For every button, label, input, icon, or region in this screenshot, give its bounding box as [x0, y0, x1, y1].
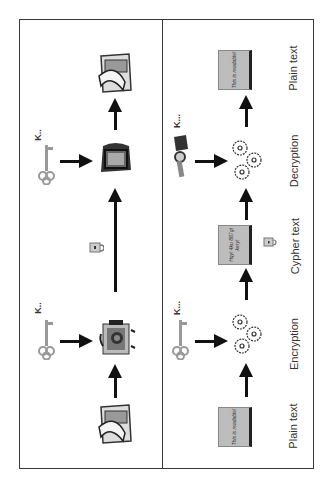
key-label: K.. [33, 302, 43, 314]
stage-label-plain-text-out: Plain text [287, 45, 299, 90]
locked-computer-icon [97, 318, 137, 360]
arrow-up [245, 200, 248, 220]
arrow-up [114, 110, 117, 130]
stage-label-decryption: Decryption [288, 135, 300, 188]
padlock-icon [88, 238, 104, 254]
newspaper-icon [95, 403, 135, 445]
arrow-right [60, 340, 80, 343]
gears-icon [230, 138, 264, 182]
gears-icon [230, 312, 264, 356]
newspaper-icon [95, 52, 135, 94]
stage-label-cypher-text: Cypher text [289, 218, 301, 274]
computer-icon [97, 140, 135, 178]
key-icon [170, 318, 192, 360]
plain-text-book: This is readable! [218, 50, 252, 90]
stage-label-encryption: Encryption [288, 318, 300, 370]
arrow-right [195, 340, 215, 343]
arrow-right [60, 160, 80, 163]
arrow-right [195, 160, 215, 163]
plain-text-book: This is readable! [218, 407, 252, 447]
arrow-up [114, 376, 117, 398]
panel-divider [162, 19, 163, 469]
stage-label-plain-text-in: Plain text [287, 403, 299, 448]
key-icon [36, 318, 58, 360]
key-label: K... [172, 301, 182, 315]
broken-key-icon [168, 133, 194, 181]
padlock-icon [263, 234, 277, 248]
arrow-up [245, 107, 248, 127]
arrow-up [245, 375, 248, 397]
key-icon [36, 143, 58, 185]
key-label: K... [172, 114, 182, 128]
arrow-up-long [114, 200, 117, 292]
key-label: K.. [33, 129, 43, 141]
arrow-up [245, 280, 248, 300]
cypher-text-book: Hqy! 4ku 887gt kery! [218, 225, 252, 265]
